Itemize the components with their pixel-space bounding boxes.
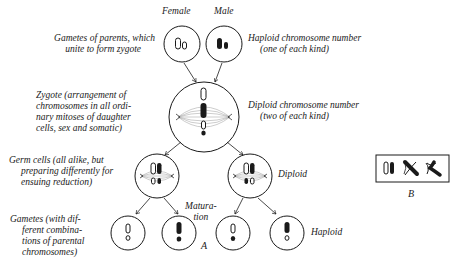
female-label: Female [162, 6, 191, 17]
arrow-female-to-zygote [184, 63, 196, 82]
figure-b-label: B [408, 188, 414, 199]
female-gamete-cell [164, 26, 200, 62]
gamete-cell-4 [270, 216, 304, 250]
maturation-label: Matura- tion [185, 201, 217, 223]
gametes-of-parents-label: Gametes of parents, which unite to form … [30, 33, 155, 55]
gamete-cell-1 [111, 216, 145, 250]
germ-cell-left [135, 154, 179, 198]
zygote-cell [169, 82, 239, 152]
figure-b-chromosome-box [376, 155, 449, 182]
diploid-label: Diploid [278, 169, 307, 180]
male-label: Male [214, 6, 234, 17]
arrow-germ-left-to-gamete-2 [164, 198, 178, 214]
diploid-number-label: Diploid chromosome number (two of each k… [248, 100, 359, 122]
haploid-label: Haploid [311, 227, 342, 238]
germ-cell-right [228, 154, 272, 198]
arrow-zygote-to-germ-right [227, 142, 243, 155]
haploid-number-label: Haploid chromosome number (one of each k… [248, 33, 361, 55]
figure-a-label: A [201, 240, 207, 251]
arrow-germ-right-to-gamete-4 [258, 198, 276, 214]
germ-cells-label: Germ cells (all alike, but preparing dif… [9, 155, 135, 188]
gametes-combinations-label: Gametes (with dif- ferent combina- tions… [10, 214, 102, 258]
male-gamete-cell [206, 26, 242, 62]
gamete-cell-3 [216, 216, 250, 250]
arrow-zygote-to-germ-left [165, 142, 181, 155]
zygote-label: Zygote (arrangement of chromosomes in al… [36, 90, 164, 134]
arrow-germ-left-to-gamete-1 [136, 198, 150, 214]
arrow-germ-right-to-gamete-3 [235, 198, 243, 214]
arrow-male-to-zygote [215, 63, 222, 82]
